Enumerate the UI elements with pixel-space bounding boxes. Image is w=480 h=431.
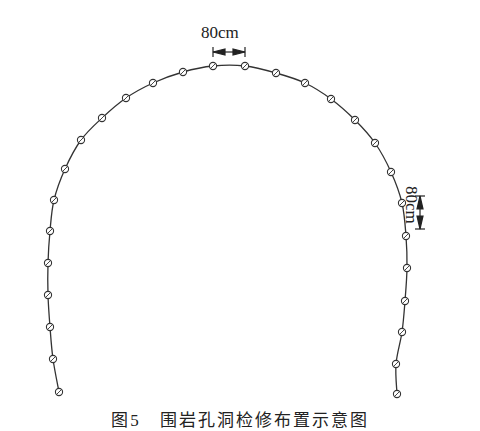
figure-caption: 图5 围岩孔洞检修布置示意图 (0, 406, 480, 431)
top-spacing-label: 80cm (201, 23, 239, 43)
measurement-points (44, 62, 410, 397)
top-dimension-arrow-icon (213, 47, 245, 57)
side-spacing-label: 80cm (401, 186, 421, 224)
